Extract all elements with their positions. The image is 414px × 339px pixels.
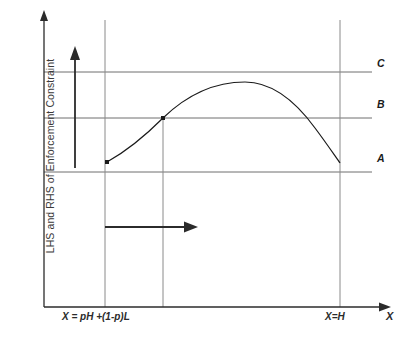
level-label-b: B [377,98,385,110]
level-label-c: C [377,57,385,69]
curve-start-marker [105,160,109,164]
x-tick-label-high-point: X=H [325,311,345,322]
y-axis-arrowhead [40,10,48,21]
lhs-enforcement-curve [107,82,340,163]
x-axis-label: X [386,310,393,322]
level-label-a: A [377,152,385,164]
x-tick-label-pooling-point: X = pH +(1-p)L [62,311,130,322]
enforcement-constraint-figure: LHS and RHS of Enforcement Constraint X … [0,0,414,339]
horizontal-shift-arrow-head [184,222,198,233]
curve-b-crossing-marker [161,116,165,120]
vertical-shift-arrow-head [70,46,80,60]
figure-canvas [0,0,414,339]
y-axis-label: LHS and RHS of Enforcement Constraint [44,26,56,286]
